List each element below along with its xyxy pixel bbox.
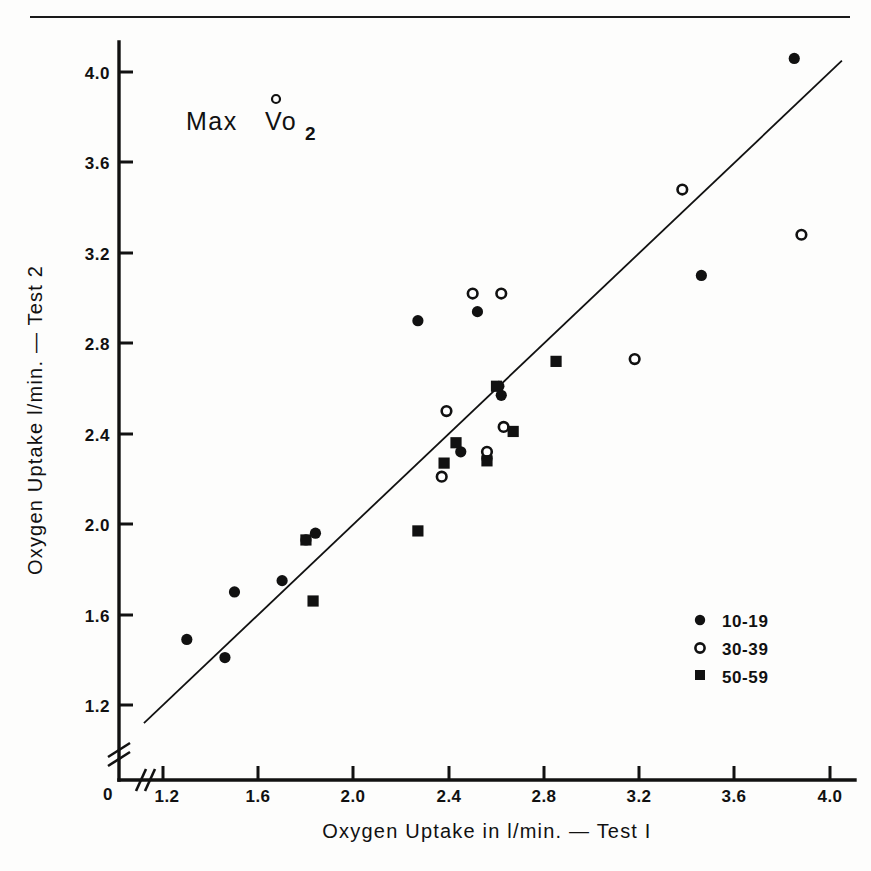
data-point-filled-circle [310,528,321,539]
y-axis-ticks [119,72,133,705]
y-axis-title: Oxygen Uptake l/min. — Test 2 [24,265,46,575]
y-tick-label-2-8: 2.8 [85,335,110,354]
data-point-filled-square [508,426,519,437]
data-point-filled-circle [789,53,800,64]
data-point-filled-circle [472,306,483,317]
y-tick-label-4-0: 4.0 [85,64,110,83]
data-point-filled-square [491,381,502,392]
series-30-39-points [437,185,806,482]
data-point-filled-square [481,455,492,466]
figure-canvas: 4.0 3.6 3.2 2.8 2.4 2.0 1.6 1.2 0 1.2 1.… [0,0,871,871]
data-point-filled-circle [696,270,707,281]
y-tick-label-2-0: 2.0 [85,516,110,535]
data-point-filled-circle [181,634,192,645]
y-tick-label-3-2: 3.2 [85,245,110,264]
x-axis-title: Oxygen Uptake in l/min. — Test I [322,820,651,842]
legend-label-50-59: 50-59 [722,668,768,687]
x-tick-label-2-4: 2.4 [436,787,461,806]
plot-title-symbol: Vo [265,107,297,135]
x-axis-ticks [163,766,830,780]
data-point-open-circle [630,354,640,364]
x-tick-label-2-0: 2.0 [340,787,365,806]
x-tick-label-1-6: 1.6 [245,787,270,806]
age-group-legend: 10-19 30-39 50-59 [695,612,769,687]
data-point-filled-square [412,525,423,536]
x-tick-label-3-2: 3.2 [626,787,651,806]
plot-title-subscript: 2 [305,123,317,144]
legend-marker-filled-square-icon [695,670,705,680]
y-tick-label-1-2: 1.2 [85,697,110,716]
data-point-open-circle [482,447,492,457]
data-point-filled-square [450,437,461,448]
origin-label: 0 [103,785,113,804]
data-point-filled-square [550,356,561,367]
series-50-59-points [300,356,561,607]
scatter-plot: 4.0 3.6 3.2 2.8 2.4 2.0 1.6 1.2 0 1.2 1.… [0,0,871,871]
legend-label-30-39: 30-39 [722,640,768,659]
data-point-filled-circle [277,575,288,586]
data-point-filled-circle [412,315,423,326]
data-point-filled-square [307,595,318,606]
data-point-open-circle [468,289,478,299]
x-tick-label-1-2: 1.2 [154,787,179,806]
legend-marker-filled-circle-icon [695,615,705,625]
data-point-open-circle [797,230,807,240]
data-point-filled-circle [229,586,240,597]
data-point-filled-square [438,458,449,469]
plot-title: Max Vo 2 [186,95,317,144]
legend-marker-open-circle-icon [695,643,704,652]
x-tick-label-4-0: 4.0 [817,787,842,806]
legend-label-10-19: 10-19 [722,612,768,631]
data-point-open-circle [442,406,452,416]
x-tick-label-2-8: 2.8 [531,787,556,806]
v-dot-overring-icon [272,95,280,103]
series-10-19-points [181,53,800,663]
data-point-open-circle [678,185,688,195]
x-tick-label-3-6: 3.6 [721,787,746,806]
data-point-open-circle [499,422,509,432]
data-point-filled-circle [219,652,230,663]
y-tick-label-1-6: 1.6 [85,607,110,626]
plot-title-main: Max [186,107,238,135]
data-point-filled-square [300,534,311,545]
y-tick-label-3-6: 3.6 [85,154,110,173]
data-point-open-circle [437,472,447,482]
data-point-open-circle [496,289,506,299]
y-tick-label-2-4: 2.4 [85,426,110,445]
